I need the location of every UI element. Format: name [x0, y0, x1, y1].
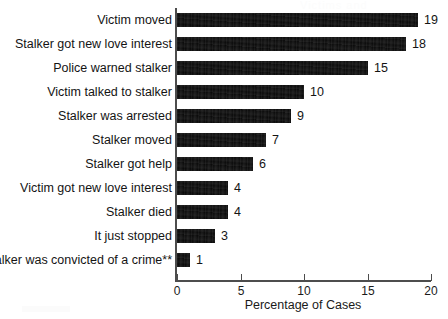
plot-area: Victim moved19Stalker got new love inter… [0, 0, 448, 319]
bar-row: Victim got new love interest4 [0, 181, 448, 195]
bar-row: Stalker was arrested9 [0, 109, 448, 123]
category-label: It just stopped [94, 229, 172, 243]
category-label: Stalker died [106, 205, 172, 219]
x-axis-tick-label: 20 [424, 284, 437, 298]
bar-value-label: 4 [234, 205, 241, 219]
x-axis-tick-label: 5 [238, 284, 245, 298]
bar-value-label: 4 [234, 181, 241, 195]
x-axis-line [175, 280, 431, 282]
x-axis-tick [304, 274, 305, 281]
bar [177, 133, 266, 147]
bar [177, 205, 228, 219]
bar-row: Stalker moved7 [0, 133, 448, 147]
category-label: Stalker was arrested [58, 109, 172, 123]
bar-value-label: 3 [221, 229, 228, 243]
bar-row: Stalker was convicted of a crime**1 [0, 253, 448, 267]
x-axis-tick [241, 274, 242, 281]
x-axis-title: Percentage of Cases [245, 298, 362, 312]
x-axis-tick-label: 15 [361, 284, 374, 298]
bar-row: It just stopped3 [0, 229, 448, 243]
bar-value-label: 19 [424, 13, 438, 27]
bar [177, 253, 190, 267]
bar [177, 85, 304, 99]
category-label: Victim talked to stalker [47, 85, 172, 99]
bar [177, 37, 406, 51]
x-axis-tick [368, 274, 369, 281]
bar-value-label: 10 [310, 85, 324, 99]
bar-value-label: 15 [374, 61, 388, 75]
x-axis-tick [431, 274, 432, 281]
bar-value-label: 18 [412, 37, 426, 51]
bar-value-label: 9 [297, 109, 304, 123]
bar [177, 157, 253, 171]
category-label: Stalker was convicted of a crime** [0, 253, 172, 267]
bar-row: Police warned stalker15 [0, 61, 448, 75]
bar-value-label: 1 [196, 253, 203, 267]
category-label: Stalker got help [85, 157, 172, 171]
category-label: Stalker moved [92, 133, 172, 147]
bar [177, 61, 368, 75]
bar-row: Victim moved19 [0, 13, 448, 27]
category-label: Victim got new love interest [20, 181, 172, 195]
bar-value-label: 7 [272, 133, 279, 147]
category-label: Police warned stalker [53, 61, 172, 75]
x-axis-tick-label: 10 [297, 284, 310, 298]
bar [177, 109, 291, 123]
bar [177, 229, 215, 243]
bar-value-label: 6 [259, 157, 266, 171]
x-axis-tick-label: 0 [174, 284, 181, 298]
bar [177, 181, 228, 195]
category-label: Victim moved [97, 13, 172, 27]
bar-row: Victim talked to stalker10 [0, 85, 448, 99]
bar-row: Stalker got new love interest18 [0, 37, 448, 51]
bar-row: Stalker got help6 [0, 157, 448, 171]
category-label: Stalker got new love interest [15, 37, 172, 51]
bar-row: Stalker died4 [0, 205, 448, 219]
bar [177, 13, 418, 27]
x-axis-tick [177, 274, 178, 281]
bar-chart-figure: Victims and Victim moved19Stalker got ne… [0, 0, 448, 319]
